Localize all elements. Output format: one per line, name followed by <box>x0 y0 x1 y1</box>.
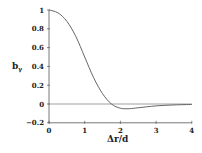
x-tick-label: 3 <box>154 126 159 135</box>
y-tick-label: 1 <box>39 6 44 15</box>
y-tick-label: −0.2 <box>26 118 44 127</box>
x-axis-label: Δr/d <box>107 134 129 144</box>
y-tick-label: 0.2 <box>32 81 44 90</box>
axes: −0.200.20.40.60.8101234 <box>26 6 194 135</box>
y-tick-label: 0.8 <box>32 24 44 33</box>
y-axis-label: bγ <box>12 61 22 73</box>
y-tick-label: 0.6 <box>32 43 44 52</box>
y-tick-label: 0.4 <box>32 62 44 71</box>
chart: −0.200.20.40.60.8101234 Δr/d bγ <box>0 0 202 153</box>
data-line <box>49 10 192 109</box>
x-tick-label: 1 <box>82 126 87 135</box>
y-tick-label: 0 <box>39 100 44 109</box>
x-tick-label: 0 <box>47 126 52 135</box>
x-tick-label: 4 <box>189 126 194 135</box>
